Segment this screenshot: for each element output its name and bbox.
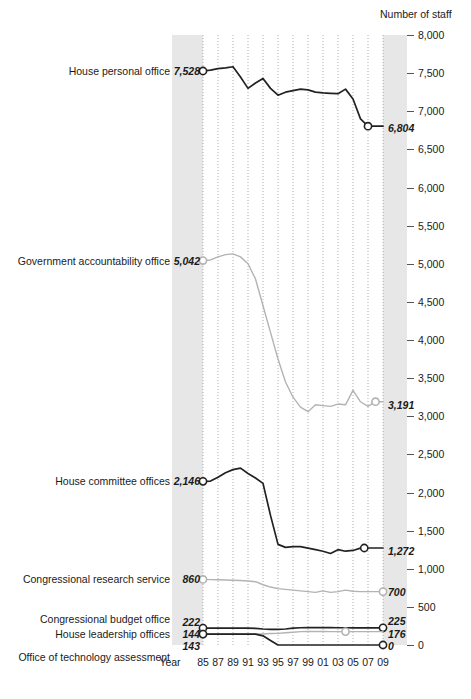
series-line [203,67,383,126]
x-tick-label: 95 [272,656,284,668]
series-start-marker [199,478,206,485]
series-name-label: House leadership offices [55,628,170,640]
series-end-value: 6,804 [388,122,414,134]
y-tick-label: 6,500 [418,143,444,155]
series-end-marker [342,628,349,635]
series-name-label: Government accountability office [18,255,170,267]
x-tick-label: 01 [317,656,329,668]
series-end-value: 0 [388,640,394,652]
x-tick-label: 97 [287,656,299,668]
y-tick-label: 1,000 [418,563,444,575]
y-tick-label: 3,500 [418,372,444,384]
series-start-value: 143 [182,640,200,652]
y-tick-label: 3,000 [418,410,444,422]
y-tick-label: 500 [418,601,436,613]
y-tick-mark [407,493,414,494]
series-start-value: 860 [182,573,200,585]
y-tick-mark [407,226,414,227]
y-tick-mark [407,416,414,417]
y-tick-label: 0 [418,639,424,651]
y-tick-mark [407,531,414,532]
y-tick-label: 2,000 [418,487,444,499]
series-end-value: 700 [388,586,406,598]
series-start-value: 2,146 [174,475,200,487]
y-tick-label: 2,500 [418,448,444,460]
y-tick-mark [407,111,414,112]
series-end-marker [379,624,386,631]
series-start-marker [199,576,206,583]
x-tick-label: 99 [302,656,314,668]
series-name-label: Office of technology assessment [18,651,170,663]
y-tick-mark [407,607,414,608]
y-tick-mark [407,264,414,265]
series-name-label: House committee offices [55,475,170,487]
series-end-marker [372,398,379,405]
y-tick-mark [407,73,414,74]
y-tick-mark [407,188,414,189]
x-tick-label: 07 [362,656,374,668]
series-start-value: 144 [182,628,200,640]
x-tick-label: 87 [212,656,224,668]
y-tick-mark [407,569,414,570]
series-end-value: 3,191 [388,399,414,411]
x-tick-label: 91 [242,656,254,668]
series-end-value: 225 [388,615,406,627]
y-tick-mark [407,645,414,646]
x-tick-label: 05 [347,656,359,668]
series-end-marker [361,544,368,551]
y-tick-label: 5,500 [418,220,444,232]
series-name-label: House personal office [69,65,170,77]
y-tick-label: 7,500 [418,67,444,79]
x-tick-label: 03 [332,656,344,668]
y-tick-mark [407,302,414,303]
y-tick-label: 4,500 [418,296,444,308]
x-tick-label: 85 [197,656,209,668]
y-tick-label: 5,000 [418,258,444,270]
series-name-label: Congressional budget office [40,613,170,625]
y-tick-mark [407,149,414,150]
y-tick-label: 4,000 [418,334,444,346]
series-start-value: 5,042 [174,255,200,267]
x-tick-label: 89 [227,656,239,668]
y-tick-mark [407,378,414,379]
series-end-value: 176 [388,628,406,640]
y-tick-label: 8,000 [418,29,444,41]
series-end-marker [364,123,371,130]
series-start-value: 222 [182,616,200,628]
series-end-value: 1,272 [388,545,414,557]
y-tick-mark [407,454,414,455]
x-tick-label: 93 [257,656,269,668]
series-start-marker [199,67,206,74]
staff-line-chart: Number of staff 8,0007,5007,0006,5006,00… [0,0,471,699]
series-start-value: 7,528 [174,65,200,77]
y-tick-label: 6,000 [418,182,444,194]
x-tick-label: 09 [377,656,389,668]
y-tick-label: 1,500 [418,525,444,537]
series-line [203,468,383,553]
y-tick-label: 7,000 [418,105,444,117]
series-start-marker [199,630,206,637]
series-name-label: Congressional research service [23,573,170,585]
y-tick-mark [407,340,414,341]
series-start-marker [199,257,206,264]
y-tick-mark [407,35,414,36]
series-end-marker [379,641,386,648]
series-end-marker [379,588,386,595]
